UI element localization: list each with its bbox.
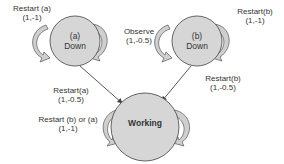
label-restart-a-self: Restart (a) (1,-1) bbox=[4, 4, 60, 22]
label-observe-self: Observe (1,-0.5) bbox=[114, 27, 164, 45]
loop-a-left-icon bbox=[33, 25, 50, 62]
label-restart-b-self: Restart(b) (1,-1) bbox=[230, 7, 280, 25]
label-restart-b-to-working: Restart(b) (1,-0.5) bbox=[198, 74, 248, 92]
label-restart-ba-working-self: Restart (b) or (a) (1,-1) bbox=[32, 115, 104, 133]
node-a-down-label: (a) Down bbox=[55, 31, 95, 51]
node-b-down-label: (b) Down bbox=[177, 31, 217, 51]
edge-b-to-working bbox=[162, 66, 191, 101]
label-restart-a-to-working: Restart(a) (1,-0.5) bbox=[46, 86, 96, 104]
node-working-label: Working bbox=[120, 118, 170, 128]
